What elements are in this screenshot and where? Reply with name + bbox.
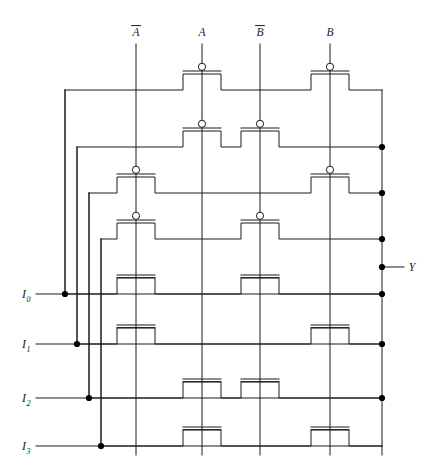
- row-3-pmos-bubble-icon: [132, 166, 139, 173]
- row-1-channel-rail: [65, 74, 382, 90]
- row-6-channel-rail: [77, 328, 382, 344]
- junction-dot-I3-bus-tap: [98, 443, 104, 449]
- junction-dot-out-tap-row3: [379, 190, 385, 196]
- junction-dot-out-tap-row7: [379, 395, 385, 401]
- row-3-channel-rail: [89, 177, 382, 193]
- row-8-channel-rail: [101, 430, 382, 446]
- output-label-Y: Y: [409, 261, 417, 273]
- row-1-pmos-bubble-icon: [326, 63, 333, 70]
- input-label-sub-I2: 2: [27, 399, 31, 408]
- junction-dot-I1-bus-tap: [74, 341, 80, 347]
- junction-dot-I2-bus-tap: [86, 395, 92, 401]
- junction-dot-I0-bus-tap: [62, 291, 68, 297]
- select-label-B: B: [326, 26, 333, 38]
- row-2-channel-rail: [77, 131, 382, 147]
- circuit-diagram: AABBI0I1I2I3Y: [0, 0, 440, 472]
- select-label-A-bar: A: [131, 26, 140, 38]
- input-label-sub-I3: 3: [26, 447, 31, 456]
- row-5-channel-rail: [65, 278, 382, 294]
- schematic-canvas: AABBI0I1I2I3Y: [0, 0, 440, 472]
- junction-dot-out-tap-row6: [379, 341, 385, 347]
- junction-dot-out-tap-row2: [379, 144, 385, 150]
- junction-dot-out-tap-row5: [379, 291, 385, 297]
- select-label-A: A: [197, 26, 206, 38]
- select-label-B-bar: B: [256, 26, 263, 38]
- row-2-pmos-bubble-icon: [256, 120, 263, 127]
- input-label-sub-I0: 0: [27, 295, 31, 304]
- row-4-pmos-bubble-icon: [256, 212, 263, 219]
- row-4-channel-rail: [101, 223, 382, 239]
- row-2-pmos-bubble-icon: [198, 120, 205, 127]
- row-3-pmos-bubble-icon: [326, 166, 333, 173]
- row-7-channel-rail: [89, 382, 382, 398]
- input-label-sub-I1: 1: [27, 345, 31, 354]
- row-4-pmos-bubble-icon: [132, 212, 139, 219]
- row-1-pmos-bubble-icon: [198, 63, 205, 70]
- junction-dot-out-tap-row4: [379, 236, 385, 242]
- junction-dot-out-tap-Y: [379, 264, 385, 270]
